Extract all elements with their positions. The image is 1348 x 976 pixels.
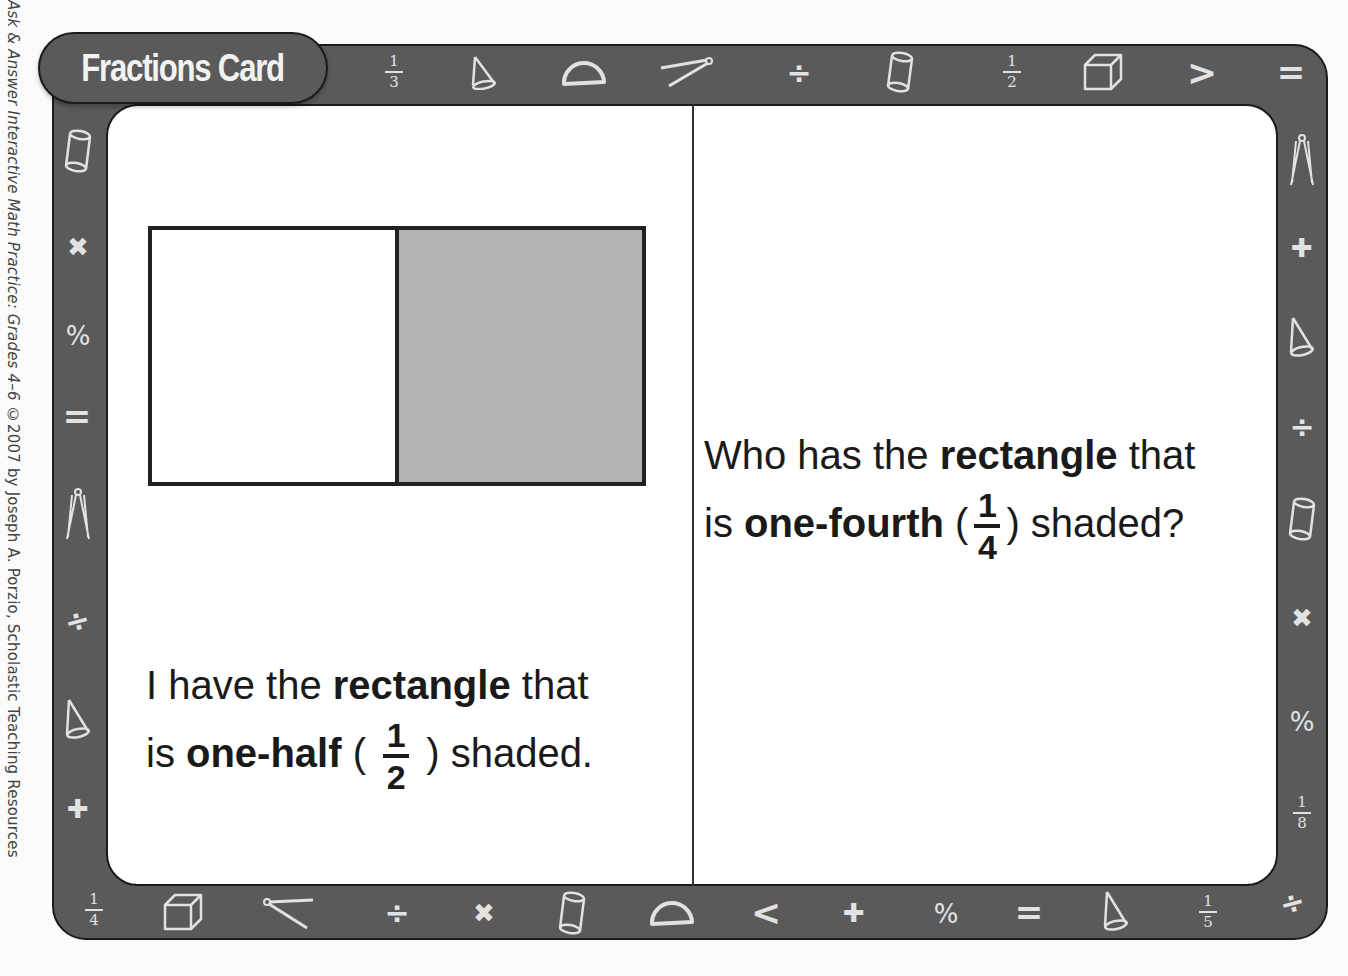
cylinder-icon: [60, 128, 96, 174]
fraction-one-third-icon: 13: [378, 52, 410, 92]
fraction-one-fourth-icon: 14: [78, 888, 110, 932]
cone-icon: [1286, 314, 1318, 358]
answer-line-2: is one-half ( 12 ) shaded.: [146, 718, 593, 794]
copyright-text: ©2007 by Joseph A. Porzio, Scholastic Te…: [4, 401, 22, 858]
rectangle-unshaded-half: [152, 230, 399, 482]
equals-icon: =: [62, 398, 92, 434]
cone-icon: [466, 52, 502, 92]
percent-icon: %: [1286, 704, 1318, 740]
card-divider: [692, 104, 694, 886]
fraction-one-eighth-icon: 18: [1286, 792, 1318, 834]
fraction-one-half: 12: [383, 718, 409, 794]
cube-icon: [160, 890, 206, 934]
greater-than-icon: >: [1186, 52, 1218, 92]
equals-icon: =: [1276, 54, 1306, 90]
answer-statement: I have the rectangle that is one-half ( …: [146, 652, 593, 794]
question-statement: Who has the rectangle that is one-fourth…: [704, 422, 1195, 564]
cube-icon: [1080, 50, 1126, 94]
times-icon: ✖: [1288, 602, 1316, 634]
rectangle-shaded-half: [399, 230, 642, 482]
equals-icon: =: [1014, 894, 1044, 930]
cylinder-icon: [554, 890, 590, 936]
cone-icon: [1100, 888, 1132, 932]
answer-line-1: I have the rectangle that: [146, 652, 593, 718]
copyright-credit: Ask & Answer Interactive Math Practice: …: [2, 0, 24, 940]
times-icon: ✖: [64, 230, 92, 264]
cone-icon: [62, 696, 94, 740]
percent-icon: %: [62, 318, 94, 354]
fraction-one-half-icon: 12: [996, 52, 1028, 92]
protractor-icon: [558, 54, 610, 90]
card-title: Fractions Card: [82, 47, 285, 90]
compass-icon: [656, 54, 718, 90]
percent-icon: %: [930, 896, 962, 932]
compass-icon: [62, 486, 94, 542]
card-title-tab: Fractions Card: [38, 32, 328, 104]
half-shaded-rectangle: [148, 226, 646, 486]
fraction-one-fourth: 14: [974, 488, 1000, 564]
plus-icon: ✚: [1288, 232, 1316, 264]
question-line-2: is one-fourth (14) shaded?: [704, 488, 1195, 564]
plus-icon: ✚: [64, 792, 92, 826]
divide-icon: ÷: [784, 54, 814, 90]
plus-icon: ✚: [840, 896, 868, 930]
question-line-1: Who has the rectangle that: [704, 422, 1195, 488]
times-icon: ✖: [470, 896, 498, 930]
divide-icon: ÷: [382, 894, 412, 930]
compass-icon: [256, 892, 318, 932]
book-title: Ask & Answer Interactive Math Practice: …: [4, 0, 22, 401]
protractor-icon: [646, 894, 698, 930]
less-than-icon: <: [750, 892, 782, 932]
cylinder-icon: [1284, 496, 1320, 542]
cylinder-icon: [882, 50, 918, 94]
compass-icon: [1286, 132, 1318, 188]
divide-icon: ÷: [1286, 408, 1318, 444]
fraction-one-fifth-icon: 15: [1192, 890, 1224, 934]
